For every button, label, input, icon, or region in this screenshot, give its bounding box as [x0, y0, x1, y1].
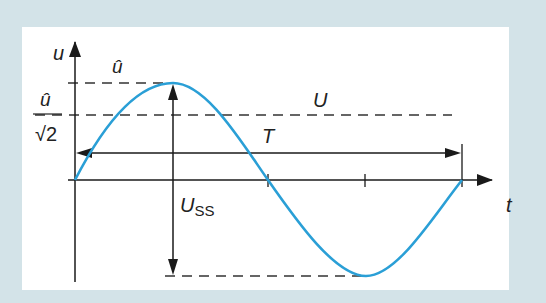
rms-label: U [313, 89, 328, 111]
uss-main: U [180, 194, 195, 216]
x-axis-label: t [506, 194, 513, 216]
rms-numerator: û [40, 89, 51, 110]
sine-diagram: u t û û √2 U T USS [0, 0, 546, 303]
y-axis-label: u [53, 42, 64, 64]
peak-label: û [112, 56, 123, 77]
uss-arrow-bottom-head [168, 259, 178, 275]
uss-arrow-top-head [168, 84, 178, 100]
uss-subscript: SS [194, 202, 214, 219]
period-arrow-right-head [445, 148, 461, 158]
uss-label: USS [180, 194, 214, 219]
rms-denominator: √2 [35, 123, 57, 145]
period-label: T [262, 125, 276, 147]
